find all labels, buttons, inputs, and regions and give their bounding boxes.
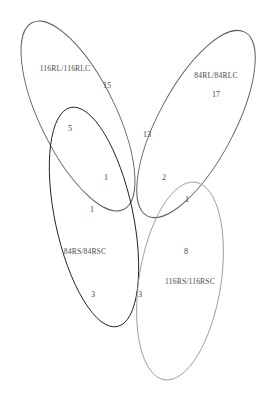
venn-region-count: 15 [103, 81, 111, 90]
venn-region-count: 13 [143, 130, 151, 139]
venn-region-count: 17 [212, 90, 220, 99]
venn-ellipse-84rl [114, 14, 275, 233]
venn-region-count: 5 [68, 124, 72, 133]
venn-set-label-116rl: 116RL/116RLC [40, 64, 91, 73]
venn-region-count: 1 [104, 173, 108, 182]
venn-ellipse-116rl [0, 6, 158, 226]
venn-set-label-84rs: 84RS/84RSC [64, 247, 106, 256]
venn-region-count: 1 [185, 195, 189, 204]
venn-region-count: 2 [162, 173, 166, 182]
venn-region-count: 8 [184, 247, 188, 256]
venn-region-count: 1 [90, 205, 94, 214]
venn-diagram-figure: 116RL/116RLC 84RL/84RLC 84RS/84RSC 116RS… [0, 0, 275, 418]
venn-region-count: 3 [138, 290, 142, 299]
venn-set-label-116rs: 116RS/116RSC [165, 277, 215, 286]
venn-region-count: 3 [91, 290, 95, 299]
venn-set-label-84rl: 84RL/84RLC [194, 71, 237, 80]
